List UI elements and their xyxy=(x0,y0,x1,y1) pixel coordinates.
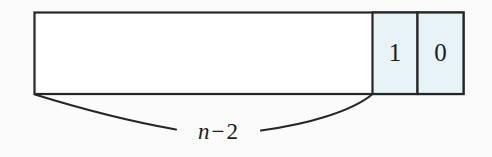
brace-label-operand: 2 xyxy=(226,119,238,144)
brace-label-variable: n xyxy=(198,119,210,144)
brace-label-operator: − xyxy=(212,119,225,144)
bit-field-array-diagram: 1 0 n−2 xyxy=(0,0,492,157)
bit-cell-1-label: 1 xyxy=(389,39,402,66)
brace-right-arm xyxy=(261,95,372,131)
brace-label: n−2 xyxy=(198,119,238,144)
brace-left-arm xyxy=(35,95,176,130)
bit-cell-0-label: 0 xyxy=(434,39,447,66)
